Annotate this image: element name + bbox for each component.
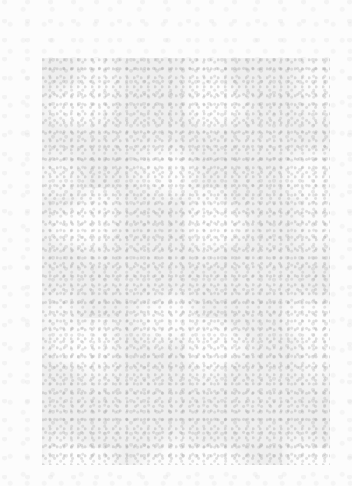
noise-canvas	[0, 0, 352, 486]
textured-panel	[42, 58, 330, 465]
